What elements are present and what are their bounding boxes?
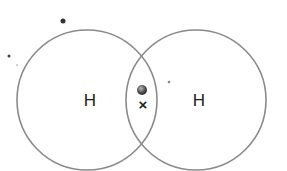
stray-dot (8, 55, 11, 58)
atom-label-left: H (84, 91, 96, 110)
atom-label-right: H (193, 91, 205, 110)
stray-dot (168, 81, 171, 84)
dot-electron-icon (137, 85, 147, 95)
stray-dot (61, 19, 66, 24)
h2-bond-diagram: H H × (0, 0, 287, 171)
stray-dot (16, 64, 18, 66)
cross-electron-icon: × (139, 96, 148, 113)
